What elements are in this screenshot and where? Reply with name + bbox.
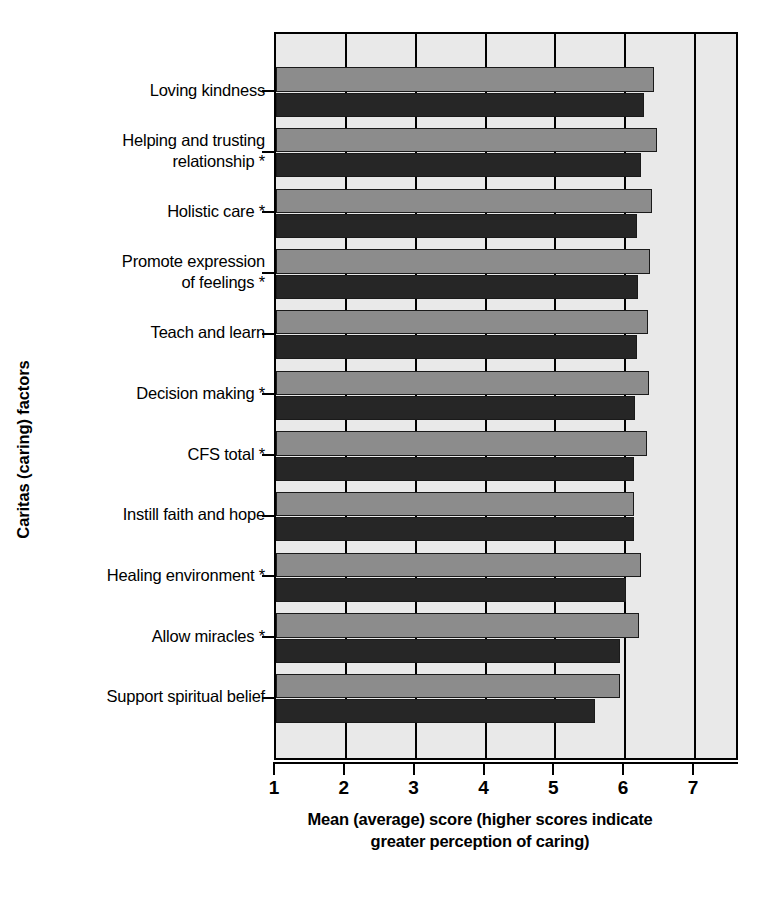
y-axis-tick <box>262 333 274 335</box>
y-axis-category-label: Support spiritual belief <box>40 686 265 707</box>
x-axis-tick-label: 2 <box>324 777 364 799</box>
x-axis-tick-label: 6 <box>603 777 643 799</box>
x-axis-title-line2: greater perception of caring) <box>371 832 590 850</box>
y-axis-tick <box>262 151 274 153</box>
bar <box>276 396 635 420</box>
x-axis-tick-label: 3 <box>394 777 434 799</box>
y-axis-tick <box>262 393 274 395</box>
bar <box>276 335 637 359</box>
y-axis-category-label: Instill faith and hope <box>40 504 265 525</box>
bar <box>276 699 595 723</box>
x-axis-tick <box>622 762 624 775</box>
x-axis-tick <box>483 762 485 775</box>
bar <box>276 310 648 334</box>
y-axis-category-label: Teach and learn <box>40 322 265 343</box>
y-axis-category-label: CFS total * <box>40 444 265 465</box>
bar <box>276 457 634 481</box>
y-axis-category-label: Loving kindness <box>40 80 265 101</box>
bar-chart-figure: Caritas (caring) factors Loving kindness… <box>0 0 769 898</box>
bar <box>276 67 654 91</box>
x-axis-tick <box>273 762 275 775</box>
x-axis-tick <box>413 762 415 775</box>
bar <box>276 275 638 299</box>
y-axis-tick <box>262 515 274 517</box>
x-axis-tick-label: 4 <box>464 777 504 799</box>
y-axis-category-label: Healing environment * <box>40 565 265 586</box>
bar <box>276 613 639 637</box>
gridline <box>694 34 696 758</box>
y-axis-title: Caritas (caring) factors <box>14 285 33 615</box>
y-axis-category-label: Promote expression of feelings * <box>40 251 265 293</box>
y-axis-tick <box>262 636 274 638</box>
y-axis-category-label: Holistic care * <box>40 201 265 222</box>
y-axis-tick <box>262 697 274 699</box>
bar <box>276 371 649 395</box>
x-axis-tick <box>692 762 694 775</box>
x-axis-title: Mean (average) score (higher scores indi… <box>200 808 760 852</box>
bar <box>276 578 626 602</box>
bar <box>276 517 634 541</box>
bar <box>276 93 644 117</box>
x-axis-title-line1: Mean (average) score (higher scores indi… <box>307 810 652 828</box>
y-axis-tick <box>262 272 274 274</box>
bar <box>276 153 641 177</box>
y-axis-tick <box>262 211 274 213</box>
bar <box>276 214 637 238</box>
y-axis-category-label: Allow miracles * <box>40 626 265 647</box>
bar <box>276 639 620 663</box>
x-axis-tick-label: 5 <box>533 777 573 799</box>
y-axis-category-label: Helping and trusting relationship * <box>40 130 265 172</box>
y-axis-tick <box>262 90 274 92</box>
plot-area <box>274 32 738 760</box>
x-axis-tick-label: 7 <box>673 777 713 799</box>
y-axis-tick <box>262 454 274 456</box>
y-axis-category-label: Decision making * <box>40 383 265 404</box>
bar <box>276 674 620 698</box>
x-axis-tick-label: 1 <box>254 777 294 799</box>
x-axis-tick <box>552 762 554 775</box>
figure-caption <box>8 884 528 898</box>
bar <box>276 553 641 577</box>
x-axis-tick <box>343 762 345 775</box>
y-axis-tick <box>262 575 274 577</box>
bar <box>276 128 657 152</box>
y-axis-category-labels: Loving kindnessHelping and trusting rela… <box>40 32 265 760</box>
bar <box>276 492 634 516</box>
bar <box>276 431 647 455</box>
bar <box>276 189 652 213</box>
bar <box>276 249 650 273</box>
